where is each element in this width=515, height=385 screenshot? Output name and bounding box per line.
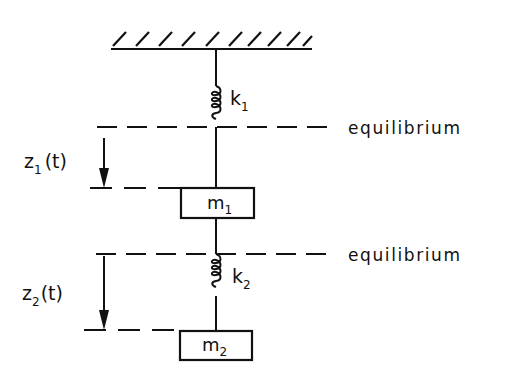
z1-label: z1(t): [24, 150, 67, 177]
spring-k2: [212, 254, 221, 287]
equilibrium-label-1: equilibrium: [348, 118, 462, 138]
z2-arrowhead-icon: [99, 310, 109, 330]
spring-k1: [212, 86, 221, 119]
z1-arrowhead-icon: [99, 168, 109, 188]
ceiling-support: [111, 32, 312, 49]
z2-label: z2(t): [22, 282, 63, 309]
spring-k1-label: k1: [230, 87, 249, 114]
spring-mass-diagram: k1 equilibrium z1(t) m1 equilibrium k2 z…: [0, 0, 515, 385]
equilibrium-label-2: equilibrium: [348, 245, 462, 265]
spring-k2-label: k2: [232, 265, 251, 292]
